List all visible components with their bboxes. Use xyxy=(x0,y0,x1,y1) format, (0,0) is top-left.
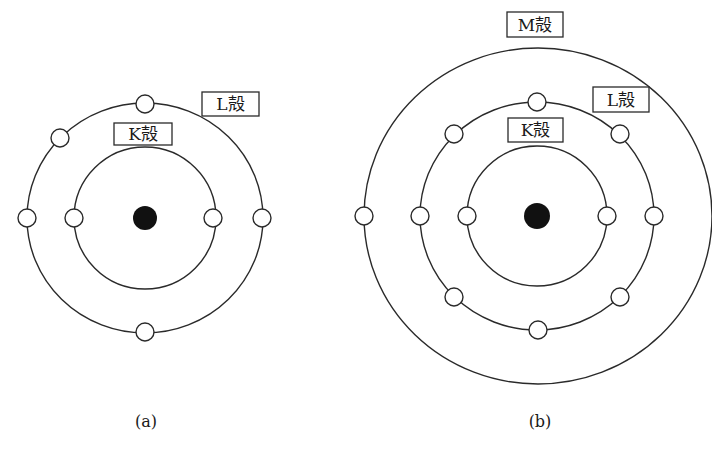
panel-b-nucleus xyxy=(524,203,550,229)
panel-a-caption: (a) xyxy=(135,412,157,431)
panel-b-l-electron xyxy=(445,288,463,306)
panel-b-l-electron xyxy=(445,125,463,143)
panel-a-l-electron xyxy=(18,209,36,227)
panel-b-caption: (b) xyxy=(529,412,552,431)
panel-b-l-electron xyxy=(645,207,663,225)
panel-a-l-shell-label-text: L殻 xyxy=(216,94,244,114)
panel-a-l-electron xyxy=(136,323,154,341)
panel-b-k-electron xyxy=(458,207,476,225)
panel-b-l-electron xyxy=(528,93,546,111)
panel-b-m-electron xyxy=(355,207,373,225)
panel-b-atom-diagram: M殻 L殻 K殻 (b) xyxy=(355,12,712,431)
panel-a-k-electron xyxy=(204,209,222,227)
panel-a-k-shell-label: K殻 xyxy=(114,123,172,145)
panel-b-l-electron xyxy=(529,321,547,339)
panel-a-k-electron xyxy=(65,209,83,227)
panel-b-l-electron xyxy=(611,288,629,306)
panel-b-k-electron xyxy=(598,207,616,225)
panel-b-l-electron xyxy=(611,125,629,143)
panel-a-l-electron xyxy=(253,209,271,227)
electron-shell-figure: K殻 L殻 (a) M殻 L殻 xyxy=(0,0,712,452)
panel-a-nucleus xyxy=(133,206,157,230)
panel-a-l-electron xyxy=(51,129,69,147)
panel-b-k-shell-label: K殻 xyxy=(508,118,563,142)
panel-b-l-electron xyxy=(411,207,429,225)
panel-a-l-shell-label: L殻 xyxy=(202,92,259,116)
panel-b-k-shell-label-text: K殻 xyxy=(521,120,551,140)
panel-b-m-shell-label-text: M殻 xyxy=(518,15,552,35)
panel-b-m-shell-label: M殻 xyxy=(507,12,563,37)
panel-b-l-shell-label-text: L殻 xyxy=(607,90,635,110)
panel-a-k-shell-label-text: K殻 xyxy=(128,124,158,144)
panel-a-atom-diagram: K殻 L殻 (a) xyxy=(18,92,271,431)
panel-a-l-electron xyxy=(136,95,154,113)
panel-b-l-shell-label: L殻 xyxy=(593,87,649,112)
